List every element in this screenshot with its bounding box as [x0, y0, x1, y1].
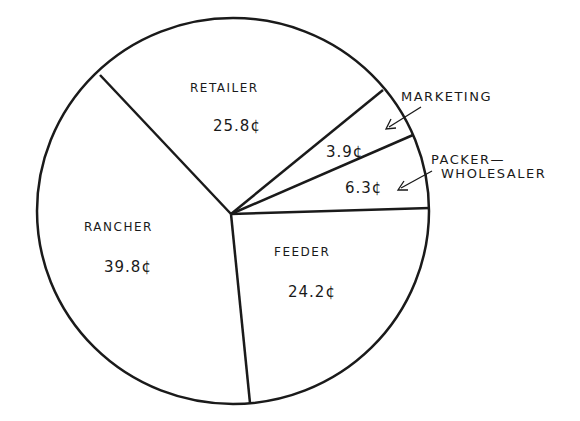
slice-value-marketing: 3.9¢	[326, 143, 363, 161]
slice-value-rancher: 39.8¢	[104, 258, 152, 276]
pie-chart: RETAILER 25.8¢ RANCHER 39.8¢ FEEDER 24.2…	[0, 0, 580, 421]
external-label-packer-line1: PACKER—	[431, 152, 505, 167]
slice-value-packer: 6.3¢	[345, 179, 382, 197]
slice-label-feeder: FEEDER	[274, 245, 330, 259]
slice-value-retailer: 25.8¢	[213, 117, 261, 135]
external-label-packer-line2: WHOLESALER	[441, 166, 546, 181]
slice-label-retailer: RETAILER	[190, 81, 259, 95]
slice-value-feeder: 24.2¢	[288, 283, 336, 301]
divider-packer-feeder	[231, 208, 430, 214]
slice-dividers	[100, 75, 430, 403]
slice-label-rancher: RANCHER	[84, 220, 153, 234]
divider-marketing-packer	[231, 135, 413, 214]
arrow-marketing	[389, 107, 421, 127]
external-label-marketing: MARKETING	[401, 89, 492, 104]
divider-rancher-retailer	[100, 75, 231, 214]
divider-feeder-rancher	[231, 214, 250, 403]
